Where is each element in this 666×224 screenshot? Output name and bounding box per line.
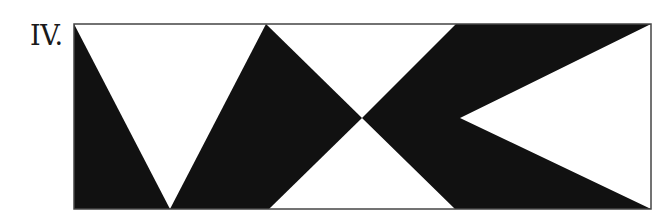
geometric-figure [0, 0, 666, 224]
